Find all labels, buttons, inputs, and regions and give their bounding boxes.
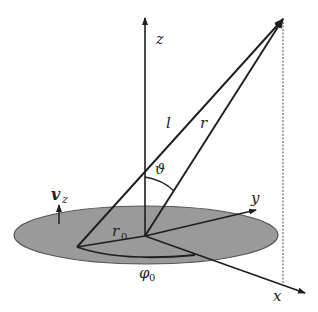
svg-text:0: 0 bbox=[121, 231, 127, 242]
svg-text:v: v bbox=[51, 185, 61, 204]
x-axis-label: x bbox=[273, 287, 282, 305]
diagram-canvas: z l r ϑ y x r 0 φ 0 v z bbox=[0, 0, 318, 312]
svg-text:0: 0 bbox=[149, 272, 155, 283]
phi0-label: φ 0 bbox=[139, 264, 155, 283]
r-label: r bbox=[200, 114, 208, 132]
l-label: l bbox=[166, 114, 171, 132]
svg-text:r: r bbox=[112, 222, 120, 240]
vz-label: v z bbox=[51, 185, 68, 206]
y-axis-label: y bbox=[250, 189, 260, 207]
z-axis-label: z bbox=[155, 31, 164, 47]
theta-label: ϑ bbox=[155, 161, 165, 177]
theta-arc bbox=[145, 177, 174, 191]
svg-text:z: z bbox=[61, 193, 68, 206]
